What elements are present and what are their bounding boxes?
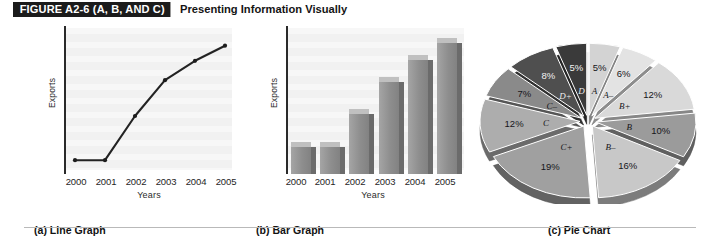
pie-slice-percent: 16%: [618, 160, 638, 171]
line-data-point: [103, 158, 107, 162]
pie-slice-label: D: [577, 86, 585, 96]
caption-bar-graph: (b) Bar Graph: [256, 224, 324, 236]
line-data-point: [193, 59, 197, 63]
bar-y-axis-label: Exports: [269, 63, 279, 123]
bar-tick-2002: 2002: [340, 176, 370, 187]
pie-slice-label: A–: [602, 90, 613, 100]
line-data-point: [73, 158, 77, 162]
bar-side-face: [340, 147, 345, 174]
pie-slice-label: C–: [547, 101, 558, 111]
line-tick-2005: 2005: [210, 176, 242, 187]
bar-front-face: [349, 114, 369, 174]
figure-bottom-rule: [24, 227, 696, 228]
line-data-point: [163, 78, 167, 82]
bar-front-face: [437, 43, 457, 174]
pie-slice-percent: 8%: [541, 70, 555, 81]
figure-title: Presenting Information Visually: [180, 2, 347, 17]
bar-tick-2000: 2000: [281, 176, 311, 187]
bar-tick-2001: 2001: [310, 176, 340, 187]
caption-pie-chart: (c) Pie Chart: [548, 224, 610, 236]
pie-slice-percent: 5%: [593, 62, 607, 73]
line-tick-2003: 2003: [150, 176, 182, 187]
figure-page: FIGURE A2-6 (A, B, AND C) Presenting Inf…: [0, 0, 714, 237]
bar-column: [379, 82, 399, 174]
bar-front-face: [379, 82, 399, 174]
bar-column: [320, 147, 340, 174]
pie-slice-percent: 10%: [651, 125, 671, 136]
pie-slice-percent: 5%: [570, 62, 584, 73]
bar-column: [408, 60, 428, 174]
bar-front-face: [320, 147, 340, 174]
bar-column: [437, 43, 457, 174]
panel-line-graph: Exports 2000 2001 2002 2003 2004 2005 Ye…: [24, 24, 239, 209]
pie-slice-label: A: [591, 86, 598, 96]
bar-tick-2003: 2003: [370, 176, 400, 187]
figure-header: FIGURE A2-6 (A, B, AND C) Presenting Inf…: [0, 0, 714, 22]
pie-slice-percent: 12%: [505, 118, 525, 129]
pie-slice-label: C: [543, 118, 550, 128]
bar-tick-2004: 2004: [400, 176, 430, 187]
panel-bar-graph: Exports 2000 2001 2002 2003 2004 2005 Ye…: [248, 24, 468, 209]
pie-slice-percent: 7%: [517, 88, 531, 99]
bar-side-face: [399, 82, 404, 174]
bar-front-face: [408, 60, 428, 174]
line-tick-2004: 2004: [180, 176, 212, 187]
pie-slice-percent: 19%: [541, 161, 561, 172]
pie-svg: 5%A6%A–12%B+10%B16%B–19%C+12%C7%C–8%D+5%…: [478, 24, 704, 204]
line-tick-2000: 2000: [60, 176, 92, 187]
bar-x-axis-label: Years: [323, 190, 423, 200]
pie-slice-percent: 12%: [643, 89, 663, 100]
caption-line-graph: (a) Line Graph: [34, 224, 106, 236]
bar-front-face: [291, 147, 311, 174]
bar-column: [349, 114, 369, 174]
bar-tick-2005: 2005: [430, 176, 460, 187]
pie-slice-label: D+: [558, 91, 572, 101]
bar-columns: [288, 28, 464, 174]
line-data-point: [133, 114, 137, 118]
bar-column: [291, 147, 311, 174]
pie-slice-label: C+: [561, 142, 573, 152]
pie-slice-label: B–: [606, 142, 616, 152]
pie-slice-label: B: [627, 122, 633, 132]
line-tick-2002: 2002: [120, 176, 152, 187]
bar-side-face: [369, 114, 374, 174]
bar-side-face: [457, 43, 462, 174]
pie-slice-label: B+: [619, 101, 631, 111]
bar-side-face: [428, 60, 433, 174]
figure-number-badge: FIGURE A2-6 (A, B, AND C): [13, 2, 171, 17]
line-data-point: [223, 44, 227, 48]
panel-pie-chart: 5%A6%A–12%B+10%B16%B–19%C+12%C7%C–8%D+5%…: [478, 24, 704, 209]
line-tick-2001: 2001: [90, 176, 122, 187]
line-x-axis-label: Years: [99, 190, 199, 200]
pie-slice-percent: 6%: [617, 68, 631, 79]
bar-side-face: [311, 147, 316, 174]
